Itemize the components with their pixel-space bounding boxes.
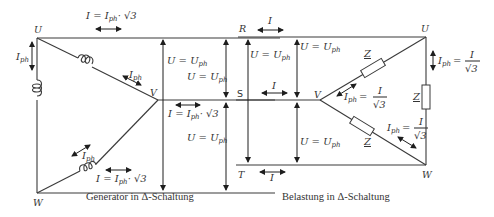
line-current-t-label: I	[269, 172, 275, 183]
impedance-vw-label: Z	[363, 136, 372, 147]
line-s-label: S	[237, 88, 243, 99]
svg-text:Iph=: Iph=	[386, 122, 410, 135]
svg-text:Iph=: Iph=	[437, 55, 461, 68]
phase-current-wv-label: Iph	[81, 150, 95, 163]
svg-text:√3: √3	[373, 99, 386, 110]
voltage-rt-label: U = Uph	[250, 49, 291, 62]
generator-caption: Generator in Δ-Schaltung	[86, 191, 194, 202]
coil-uw-icon	[33, 38, 42, 193]
impedance-uw-icon	[422, 85, 430, 109]
voltage-rs-label: U = Uph	[300, 41, 341, 54]
phase-current-uw-label: Iph= I √3	[437, 49, 480, 74]
voltage-upper2-label: U = Uph	[187, 71, 228, 84]
node-u-label: U	[421, 23, 430, 34]
svg-text:I: I	[469, 49, 475, 60]
node-w-label: W	[422, 169, 433, 180]
line-current-r-label: I	[267, 15, 273, 26]
node-w-label: W	[33, 197, 44, 208]
phase-current-vw-label: Iph= I √3	[386, 116, 428, 141]
svg-text:√3: √3	[465, 63, 478, 74]
node-u-label: U	[34, 24, 43, 35]
node-v-label: V	[314, 89, 322, 100]
phase-current-left-label: Iph	[15, 51, 29, 64]
impedance-vu-label: Z	[363, 48, 372, 59]
line-current-mid-label: I = Iph· √3	[167, 108, 219, 121]
impedance-uw-label: Z	[412, 91, 421, 102]
svg-text:Iph=: Iph=	[343, 91, 367, 104]
svg-text:I: I	[377, 85, 383, 96]
line-current-top-label: I = Iph· √3	[85, 10, 137, 23]
load-caption: Belastung in Δ-Schaltung	[282, 191, 390, 202]
line-current-s-label: I	[271, 80, 277, 91]
svg-text:√3: √3	[414, 130, 427, 141]
impedance-vu-icon	[361, 58, 386, 77]
delta-connection-diagram: U V W I = Iph· √3 Iph Iph Iph I = Iph· √…	[0, 0, 494, 217]
line-current-bottom-label: I = Iph· √3	[95, 173, 147, 186]
impedance-vw-icon	[350, 116, 375, 135]
line-t-label: T	[238, 169, 245, 180]
voltage-st-label: U = Uph	[300, 136, 341, 149]
phase-current-vu-label: Iph= I √3	[343, 85, 387, 110]
voltage-lower-label: U = Uph	[187, 132, 228, 145]
coil-uv-icon	[37, 38, 158, 100]
load-delta: R S T I I I U = Uph U = Uph U = Uph Z Z …	[236, 15, 480, 202]
node-v-label: V	[150, 87, 158, 98]
svg-text:I: I	[418, 116, 424, 127]
voltage-upper-label: U = Uph	[167, 55, 208, 68]
line-r-label: R	[238, 23, 246, 34]
